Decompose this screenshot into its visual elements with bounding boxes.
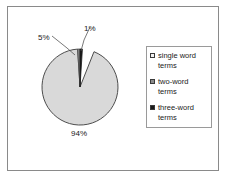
- legend-swatch-single-word-terms: [150, 53, 155, 58]
- legend-item-single-word-terms[interactable]: single word terms: [150, 51, 208, 70]
- legend-label-two-word-terms: two-word terms: [158, 77, 208, 96]
- pie-data-label-single-word-terms: 94%: [71, 129, 87, 138]
- pie-chart-figure: 5% 1% 94% single word terms two-word ter…: [0, 0, 228, 179]
- pie-data-label-two-word-terms: 5%: [38, 33, 50, 42]
- legend-label-single-word-terms: single word terms: [158, 51, 208, 70]
- legend-item-three-word-terms[interactable]: three-word terms: [150, 103, 208, 122]
- leader-line-two-word-terms: [52, 36, 75, 55]
- legend-label-three-word-terms: three-word terms: [158, 103, 208, 122]
- legend-item-two-word-terms[interactable]: two-word terms: [150, 77, 208, 96]
- legend-swatch-three-word-terms: [150, 105, 155, 110]
- pie-data-label-three-word-terms: 1%: [84, 24, 96, 33]
- legend-swatch-two-word-terms: [150, 79, 155, 84]
- chart-legend: single word terms two-word terms three-w…: [146, 46, 212, 128]
